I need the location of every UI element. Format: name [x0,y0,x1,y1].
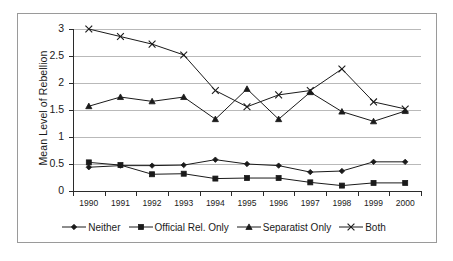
y-tick-label: 2 [18,76,64,88]
data-point-marker [181,171,186,176]
data-point-marker [117,94,123,100]
legend-label: Separatist Only [262,222,338,233]
data-point-marker [370,99,377,106]
data-point-marker [86,160,91,165]
x-tick-mark [200,192,201,196]
legend-item-both[interactable]: Both [338,221,393,233]
data-point-marker [117,33,124,40]
data-point-marker [85,26,92,33]
data-point-marker [245,176,250,181]
data-point-marker [181,94,187,100]
data-point-marker [339,183,344,188]
data-point-marker [403,180,408,185]
data-point-marker [339,168,344,173]
data-point-marker [213,157,218,162]
x-tick-mark [421,192,422,196]
data-point-marker [181,162,186,167]
data-point-marker [244,86,250,92]
legend-item-separatist-only[interactable]: Separatist Only [236,221,338,233]
chart-figure: Mean Level of Rebellion 00.511.522.53 19… [17,13,437,243]
chart-plot-wrapper: Mean Level of Rebellion 00.511.522.53 19… [18,14,436,242]
legend-label: Official Rel. Only [154,222,236,233]
y-tick-label: 0 [18,184,64,196]
data-point-marker [308,169,313,174]
data-point-marker [371,180,376,185]
data-series-layer [73,29,421,191]
data-point-marker [308,180,313,185]
data-point-marker [212,87,219,94]
data-point-marker [244,161,249,166]
data-point-marker [149,163,154,168]
data-point-marker [276,176,281,181]
x-tick-mark [263,192,264,196]
legend-marker-triangle-icon [236,221,262,233]
y-tick-label: 3 [18,22,64,34]
legend-item-neither[interactable]: Neither [61,221,127,233]
x-tick-mark [168,192,169,196]
series-neither [86,157,408,175]
y-tick-label: 1.5 [18,103,64,115]
x-tick-mark [105,192,106,196]
data-point-marker [371,159,376,164]
y-tick-label: 1 [18,130,64,142]
data-point-marker [86,165,91,170]
data-point-marker [339,66,346,73]
x-axis-line [73,191,422,192]
legend-item-official-rel-only[interactable]: Official Rel. Only [128,221,236,233]
x-tick-mark [231,192,232,196]
legend-marker-square-icon [128,221,154,233]
legend-label: Neither [87,222,127,233]
data-point-marker [180,52,187,59]
data-point-marker [213,176,218,181]
x-tick-mark [136,192,137,196]
x-tick-label: 2000 [383,198,427,208]
series-line [89,29,405,109]
data-point-marker [244,103,251,110]
y-tick-label: 2.5 [18,49,64,61]
data-point-marker [150,172,155,177]
x-tick-mark [73,192,74,196]
y-tick-label: 0.5 [18,157,64,169]
legend-marker-x-icon [338,221,364,233]
data-point-marker [402,159,407,164]
x-tick-mark [326,192,327,196]
data-point-marker [149,41,156,48]
x-tick-mark [389,192,390,196]
x-tick-mark [358,192,359,196]
series-line [89,89,405,121]
chart-legend: NeitherOfficial Rel. OnlySeparatist Only… [18,221,436,233]
data-point-marker [118,163,123,168]
data-point-marker [339,109,345,115]
legend-marker-diamond-icon [61,221,87,233]
legend-label: Both [364,222,393,233]
data-point-marker [276,163,281,168]
series-separatist-only [86,86,409,124]
x-tick-mark [294,192,295,196]
